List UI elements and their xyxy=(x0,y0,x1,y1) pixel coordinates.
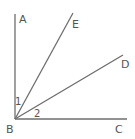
geometry-diagram: A E D B C 1 2 xyxy=(0,0,135,139)
label-angle-1: 1 xyxy=(15,96,21,107)
label-point-b: B xyxy=(6,123,14,136)
label-point-d: D xyxy=(121,58,129,71)
ray-be xyxy=(15,13,73,119)
label-point-e: E xyxy=(72,18,79,31)
ray-bd xyxy=(15,55,123,119)
label-point-a: A xyxy=(19,13,27,26)
label-angle-2: 2 xyxy=(34,108,40,119)
label-point-c: C xyxy=(115,123,123,136)
